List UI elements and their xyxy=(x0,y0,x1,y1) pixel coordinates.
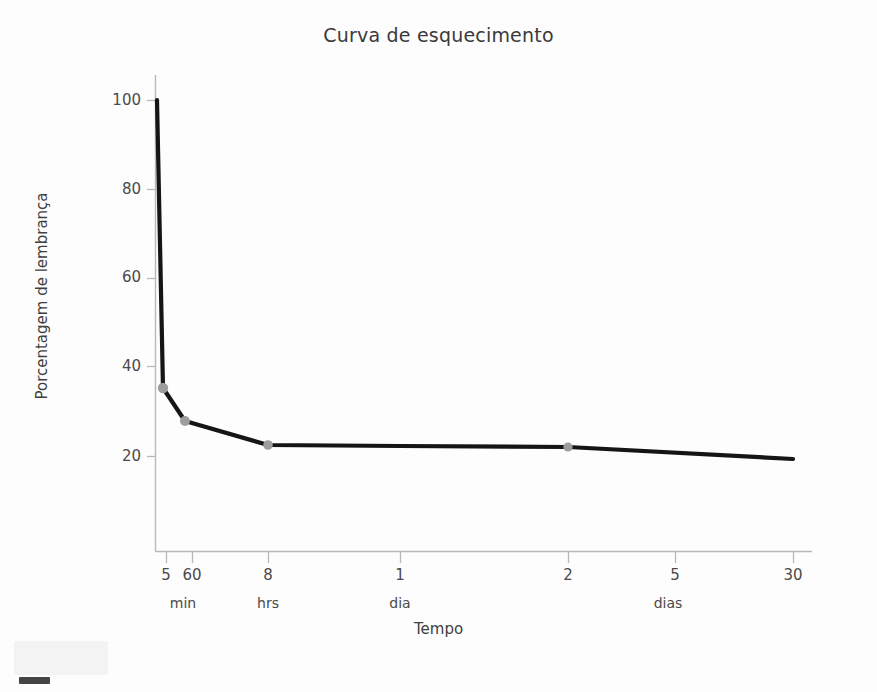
y-tick-label-100: 100 xyxy=(95,91,141,109)
x-unit-label-hrs: hrs xyxy=(240,595,296,611)
x-tick-label-60min: 60 xyxy=(169,566,215,584)
y-tick-marks xyxy=(147,101,156,457)
forgetting-curve-chart: Curva de esquecimento Porcentagem de lem… xyxy=(0,0,877,692)
x-unit-label-min: min xyxy=(155,595,211,611)
scan-artifact-ghost xyxy=(14,641,108,675)
x-tick-label-8hrs: 8 xyxy=(245,566,291,584)
x-tick-label-2dias: 2 xyxy=(545,566,591,584)
y-tick-label-80: 80 xyxy=(95,180,141,198)
x-unit-label-dias: dias xyxy=(640,595,696,611)
data-point-markers xyxy=(158,383,573,452)
x-unit-label-dia: dia xyxy=(372,595,428,611)
x-tick-marks xyxy=(167,551,794,563)
y-tick-label-40: 40 xyxy=(95,357,141,375)
x-tick-label-5dias: 5 xyxy=(652,566,698,584)
forgetting-curve-line xyxy=(157,100,793,459)
x-tick-label-1dia: 1 xyxy=(377,566,423,584)
y-tick-label-20: 20 xyxy=(95,447,141,465)
y-tick-label-60: 60 xyxy=(95,268,141,286)
scan-artifact-mark xyxy=(19,677,50,684)
x-tick-label-30dias: 30 xyxy=(770,566,816,584)
